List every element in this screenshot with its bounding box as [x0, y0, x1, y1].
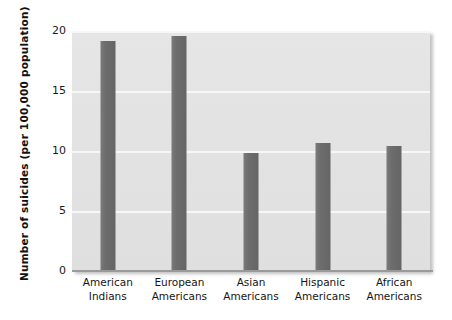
bar-slot-asian-americans [215, 31, 287, 271]
category-label-line1: Hispanic [287, 276, 359, 290]
category-label-line2: Americans [215, 290, 287, 304]
category-label-european-americans: European Americans [144, 276, 216, 303]
bar-chart-figure: Number of suicides (per 100,000 populati… [0, 0, 452, 320]
category-label-asian-americans: Asian Americans [215, 276, 287, 303]
y-tick-label-10: 10 [40, 145, 66, 156]
y-tick-label-15: 15 [40, 85, 66, 96]
bar-african-americans[interactable] [387, 146, 402, 271]
category-label-line1: American [72, 276, 144, 290]
y-axis-tick-labels: 20 15 10 5 0 [36, 0, 66, 320]
bar-american-indians[interactable] [100, 41, 115, 271]
plot-area [72, 31, 430, 271]
bar-slot-european-americans [144, 31, 216, 271]
bars-layer [72, 31, 430, 271]
category-label-african-americans: African Americans [358, 276, 430, 303]
bar-hispanic-americans[interactable] [315, 143, 330, 271]
category-label-line2: Indians [72, 290, 144, 304]
category-label-line1: European [144, 276, 216, 290]
y-tick-label-20: 20 [40, 25, 66, 36]
bar-european-americans[interactable] [172, 36, 187, 271]
category-label-line2: Americans [144, 290, 216, 304]
x-axis-line [72, 270, 433, 272]
bar-slot-american-indians [72, 31, 144, 271]
y-axis-title: Number of suicides (per 100,000 populati… [16, 21, 32, 281]
y-tick-label-0: 0 [40, 265, 66, 276]
y-tick-label-5: 5 [40, 205, 66, 216]
category-label-line2: Americans [358, 290, 430, 304]
category-label-hispanic-americans: Hispanic Americans [287, 276, 359, 303]
category-label-line2: Americans [287, 290, 359, 304]
bar-asian-americans[interactable] [243, 153, 258, 271]
category-label-line1: Asian [215, 276, 287, 290]
category-label-line1: African [358, 276, 430, 290]
x-axis-category-labels: American Indians European Americans Asia… [72, 276, 430, 318]
bar-slot-hispanic-americans [287, 31, 359, 271]
category-label-american-indians: American Indians [72, 276, 144, 303]
bar-slot-african-americans [358, 31, 430, 271]
